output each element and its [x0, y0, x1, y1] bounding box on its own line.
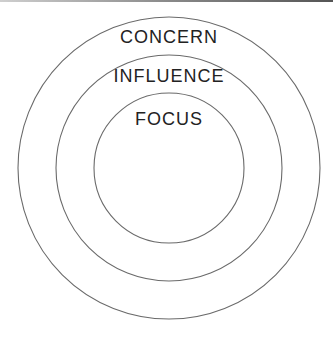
- circle-concern: [18, 17, 320, 319]
- circle-influence: [56, 55, 282, 281]
- label-influence: INFLUENCE: [113, 66, 224, 86]
- label-focus: FOCUS: [135, 109, 203, 129]
- label-concern: CONCERN: [120, 27, 218, 47]
- concentric-circles-diagram: CONCERN INFLUENCE FOCUS: [0, 0, 333, 340]
